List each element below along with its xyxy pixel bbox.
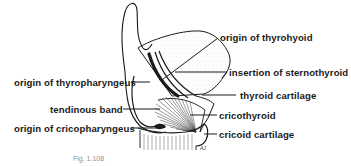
figure-caption: Fig. 1.108 <box>73 155 104 162</box>
label-thyroid-cartilage: thyroid cartilage <box>240 91 316 101</box>
label-insertion-of-sternothyroid: insertion of sternothyroid <box>229 68 348 78</box>
label-tendinous-band: tendinous band <box>50 105 123 115</box>
artist-signature: AJ <box>200 145 206 151</box>
larynx-diagram: origin of thyrohyoid insertion of sterno… <box>0 0 351 166</box>
trachea-lines <box>144 134 192 150</box>
label-origin-of-thyropharyngeus: origin of thyropharyngeus <box>14 78 136 88</box>
tendinous-band-shape <box>132 76 160 127</box>
label-origin-of-cricopharyngeus: origin of cricopharyngeus <box>14 124 135 134</box>
label-origin-of-thyrohyoid: origin of thyrohyoid <box>220 33 313 43</box>
label-cricoid-cartilage: cricoid cartilage <box>219 130 294 140</box>
lamina-lower-edge <box>196 96 214 132</box>
label-cricothyroid: cricothyroid <box>219 111 276 121</box>
